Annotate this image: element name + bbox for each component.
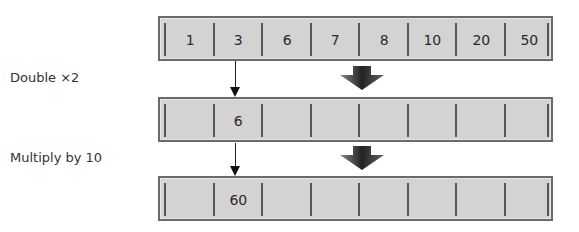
divider bbox=[547, 23, 549, 56]
connector-line bbox=[235, 61, 236, 88]
array-cell bbox=[360, 183, 409, 216]
connector-line bbox=[235, 143, 236, 167]
array-cell bbox=[311, 183, 360, 216]
divider bbox=[547, 104, 549, 137]
array-cell: 3 bbox=[214, 23, 263, 56]
array-cell: 1 bbox=[166, 23, 215, 56]
array-cell bbox=[166, 183, 215, 216]
array-cell: 8 bbox=[360, 23, 409, 56]
step-label-double: Double ×2 bbox=[10, 70, 79, 85]
array-cell bbox=[263, 104, 312, 137]
array-cell bbox=[457, 104, 506, 137]
array-cell bbox=[360, 104, 409, 137]
array-cell bbox=[166, 104, 215, 137]
arrow-down-icon bbox=[230, 166, 240, 176]
arrow-down-icon bbox=[230, 87, 240, 97]
array-cell: 6 bbox=[263, 23, 312, 56]
block-arrow-down-icon bbox=[340, 146, 384, 170]
array-cell: 60 bbox=[214, 183, 263, 216]
array-cell: 6 bbox=[214, 104, 263, 137]
array-cell: 7 bbox=[311, 23, 360, 56]
array-row-input: 1 3 6 7 8 10 20 50 bbox=[158, 16, 553, 61]
array-cell bbox=[408, 104, 457, 137]
array-row-doubled: 6 bbox=[158, 97, 553, 142]
array-cell: 10 bbox=[408, 23, 457, 56]
array-cell: 20 bbox=[457, 23, 506, 56]
step-label-multiply: Multiply by 10 bbox=[10, 150, 102, 165]
array-cell bbox=[408, 183, 457, 216]
divider bbox=[547, 183, 549, 216]
block-arrow-down-icon bbox=[340, 66, 384, 90]
array-cell bbox=[311, 104, 360, 137]
array-row-multiplied: 60 bbox=[158, 176, 553, 221]
array-cell bbox=[263, 183, 312, 216]
array-cell bbox=[457, 183, 506, 216]
